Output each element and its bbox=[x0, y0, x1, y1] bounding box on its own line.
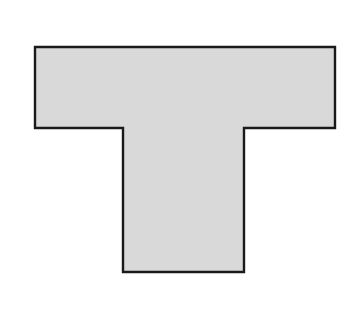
figure-canvas bbox=[0, 0, 350, 316]
t-shape-svg bbox=[0, 0, 350, 316]
